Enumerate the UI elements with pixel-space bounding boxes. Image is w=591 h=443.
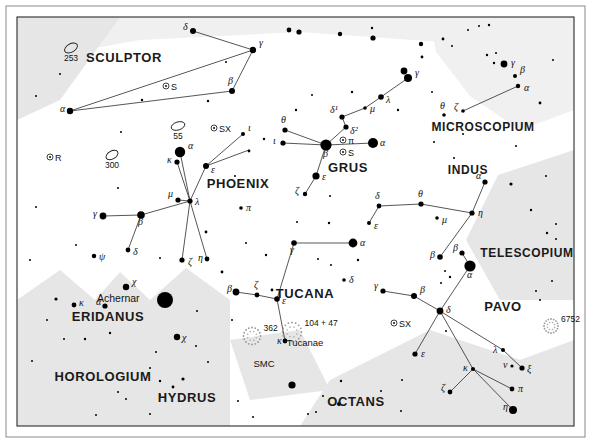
field-star xyxy=(155,351,157,353)
star-dot xyxy=(516,84,520,88)
star-dot xyxy=(367,221,371,225)
field-star xyxy=(245,242,247,244)
field-star xyxy=(295,109,297,111)
field-star xyxy=(75,244,77,246)
star-dot xyxy=(312,172,319,179)
star-dot xyxy=(412,351,417,356)
variable-star-label: S xyxy=(348,148,354,158)
star-dot xyxy=(510,364,513,367)
cluster-stipple xyxy=(248,343,250,345)
field-star xyxy=(196,310,198,312)
star-bayer-label: ε xyxy=(421,348,425,359)
cluster-stipple xyxy=(286,329,288,331)
star-bayer-label: χ xyxy=(131,276,137,287)
field-star xyxy=(546,232,548,234)
field-star xyxy=(535,290,537,292)
star-dot xyxy=(179,257,184,262)
field-star xyxy=(351,91,353,93)
deep-sky-label: 104 + 47 xyxy=(305,318,339,328)
star-dot xyxy=(102,303,107,308)
star-bayer-label: μ xyxy=(441,214,447,225)
bright-star-name: Achernar xyxy=(97,292,140,304)
cluster-stipple xyxy=(549,322,551,324)
star-dot xyxy=(72,303,77,308)
star-dot xyxy=(349,239,358,248)
deep-sky-label: 6752 xyxy=(561,314,580,324)
field-star xyxy=(315,411,317,413)
star-dot xyxy=(126,248,131,253)
star-dot xyxy=(461,109,465,113)
variable-star-label: π xyxy=(348,136,354,146)
field-star xyxy=(288,381,295,388)
field-star xyxy=(467,29,469,31)
star-bayer-label: β xyxy=(519,64,525,75)
field-star xyxy=(530,209,532,211)
field-star xyxy=(401,68,408,75)
variable-star-core xyxy=(342,139,344,141)
star-dot xyxy=(175,197,180,202)
star-bayer-label: η xyxy=(478,207,483,218)
constellation-label-hydrus: HYDRUS xyxy=(158,390,217,405)
cluster-stipple xyxy=(298,324,300,326)
star-dot xyxy=(471,367,475,371)
cluster-stipple xyxy=(547,327,549,329)
star-bayer-label: α xyxy=(380,137,386,148)
star-dot xyxy=(482,179,487,184)
cluster-stipple xyxy=(251,327,253,329)
field-star xyxy=(271,289,274,292)
cluster-stipple xyxy=(287,322,289,324)
cluster-stipple xyxy=(260,335,262,337)
star-dot xyxy=(67,108,73,114)
cluster-stipple xyxy=(545,330,547,332)
deep-sky-label: 362 xyxy=(264,323,278,333)
star-bayer-label: θ xyxy=(440,100,445,111)
cluster-stipple xyxy=(293,326,295,328)
cluster-stipple xyxy=(549,329,551,331)
field-star xyxy=(296,29,301,34)
cluster-stipple xyxy=(256,333,258,335)
star-bayer-label: λ xyxy=(385,94,391,105)
cluster-stipple xyxy=(291,322,293,324)
field-star xyxy=(120,131,122,133)
star-bayer-label: β xyxy=(137,216,143,227)
field-star xyxy=(555,238,557,240)
field-star xyxy=(322,395,324,397)
variable-star-core xyxy=(213,127,215,129)
star-dot xyxy=(280,140,285,145)
cluster-stipple xyxy=(256,337,258,339)
star-dot xyxy=(437,308,444,315)
star-dot xyxy=(509,406,517,414)
cluster-stipple xyxy=(552,329,554,331)
star-bayer-label: ε xyxy=(374,220,378,231)
star-bayer-label: δ xyxy=(446,304,451,315)
star-dot xyxy=(239,206,243,210)
star-dot xyxy=(123,284,129,290)
cluster-stipple xyxy=(243,335,245,337)
field-star xyxy=(159,380,161,382)
star-bayer-label: δ² xyxy=(350,125,359,136)
star-dot xyxy=(411,293,417,299)
cluster-stipple xyxy=(552,322,554,324)
star-dot xyxy=(255,293,260,298)
star-dot xyxy=(501,348,505,352)
field-star xyxy=(54,297,57,300)
star-bayer-label: β xyxy=(227,75,233,86)
field-star xyxy=(207,100,209,102)
cluster-stipple xyxy=(259,338,261,340)
star-bayer-label: δ xyxy=(375,190,380,201)
field-star xyxy=(449,276,451,278)
constellation-label-microscopium: MICROSCOPIUM xyxy=(431,120,534,134)
star-dot xyxy=(190,28,196,34)
cluster-stipple xyxy=(257,341,259,343)
field-star xyxy=(35,206,37,208)
field-star xyxy=(141,99,143,101)
field-star xyxy=(59,73,61,75)
cluster-stipple xyxy=(243,338,245,340)
field-star xyxy=(172,386,175,389)
star-dot xyxy=(510,387,515,392)
variable-star-core xyxy=(342,151,344,153)
constellation-label-sculptor: SCULPTOR xyxy=(86,50,162,65)
field-star xyxy=(207,361,209,363)
cluster-stipple xyxy=(544,322,546,324)
cluster-stipple xyxy=(547,319,549,321)
